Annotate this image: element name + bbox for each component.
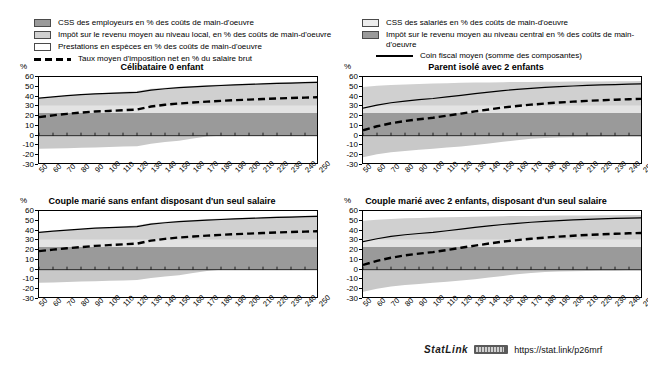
y-axis-tick-label: 20 <box>25 111 34 120</box>
area-band-negative <box>39 270 318 283</box>
y-axis-tick-label: 40 <box>25 91 34 100</box>
area-band <box>39 81 318 106</box>
barcode-icon <box>474 345 508 354</box>
y-axis-tick-label: 0 <box>354 130 358 139</box>
y-axis-unit-label: % <box>20 62 27 71</box>
chart-title: Couple marié sans enfant disposant d'un … <box>0 196 324 206</box>
y-axis-tick-label: 10 <box>349 120 358 129</box>
y-axis-tick-label: 30 <box>349 235 358 244</box>
y-axis-unit-label: % <box>20 196 27 205</box>
statlink-url[interactable]: https://stat.link/p26mrf <box>514 345 602 355</box>
figure-root: CSS des employeurs en % des coûts de mai… <box>0 0 648 370</box>
y-axis-tick-label: -10 <box>22 274 34 283</box>
y-axis-tick-label: 20 <box>349 111 358 120</box>
legend-item[interactable]: CSS des employeurs en % des coûts de mai… <box>34 18 334 29</box>
y-axis-tick-label: 10 <box>25 254 34 263</box>
area-band <box>363 106 642 113</box>
y-axis-tick-label: 60 <box>25 206 34 215</box>
y-axis-tick-label: 0 <box>30 130 34 139</box>
y-axis-tick-mark <box>35 298 38 299</box>
area-band-negative <box>363 136 642 158</box>
y-axis-tick-label: -20 <box>346 284 358 293</box>
y-axis-tick-label: 40 <box>349 91 358 100</box>
y-axis-tick-label: -30 <box>22 160 34 169</box>
y-axis-tick-label: -30 <box>346 294 358 303</box>
y-axis-tick-label: 50 <box>349 215 358 224</box>
y-axis-tick-label: 40 <box>25 225 34 234</box>
legend-swatch-icon <box>34 19 51 27</box>
y-axis-tick-label: 0 <box>30 264 34 273</box>
area-band <box>39 113 318 136</box>
chart-panel-celibataire-0-enfant: Célibataire 0 enfant%6050403020100-10-20… <box>0 62 324 192</box>
area-band <box>363 247 642 270</box>
area-band-negative <box>363 270 642 292</box>
y-axis-tick-label: 10 <box>349 254 358 263</box>
area-band-negative <box>39 136 318 149</box>
y-axis-tick-label: -20 <box>346 150 358 159</box>
plot-svg <box>39 77 318 164</box>
y-axis-tick-label: 60 <box>349 206 358 215</box>
chart-panel-couple-marie-sans-enfant: Couple marié sans enfant disposant d'un … <box>0 196 324 326</box>
x-axis-labels: 5060708090100110120130140150160170180190… <box>362 300 642 322</box>
legend-label: CSS des employeurs en % des coûts de mai… <box>58 18 254 28</box>
legend-label: CSS des salariés en % des coûts de main-… <box>386 18 568 28</box>
legend-item[interactable]: Impôt sur le revenu moyen au niveau cent… <box>362 30 648 50</box>
legend-item[interactable]: Coin fiscal moyen (somme des composantes… <box>362 51 648 62</box>
y-axis-tick-label: 40 <box>349 225 358 234</box>
y-axis-tick-label: -10 <box>346 140 358 149</box>
chart-panel-parent-isole-avec-2-enfants: Parent isolé avec 2 enfants%605040302010… <box>324 62 648 192</box>
chart-title: Parent isolé avec 2 enfants <box>324 62 648 72</box>
legend-right: CSS des salariés en % des coûts de main-… <box>362 18 648 63</box>
area-band <box>39 247 318 270</box>
solid-line-icon <box>376 52 413 60</box>
y-axis-tick-label: -10 <box>346 274 358 283</box>
y-axis-tick-label: -20 <box>22 284 34 293</box>
y-axis-unit-label: % <box>344 62 351 71</box>
plot-svg <box>39 211 318 298</box>
legend-swatch-icon <box>34 43 51 51</box>
y-axis-tick-label: -30 <box>346 160 358 169</box>
y-axis-tick-label: 30 <box>25 235 34 244</box>
plot-area <box>38 76 318 164</box>
y-axis-unit-label: % <box>344 196 351 205</box>
x-axis-tick-label: 250 <box>641 159 648 174</box>
y-axis-tick-label: 10 <box>25 120 34 129</box>
chart-panel-couple-marie-avec-2-enfants: Couple marié avec 2 enfants, disposant d… <box>324 196 648 326</box>
statlink[interactable]: StatLink https://stat.link/p26mrf <box>424 344 602 355</box>
legend-item[interactable]: Impôt sur le revenu moyen au niveau loca… <box>34 30 334 41</box>
statlink-label: StatLink <box>424 344 468 355</box>
y-axis-tick-label: 20 <box>25 245 34 254</box>
plot-area <box>362 76 642 164</box>
area-band <box>39 215 318 240</box>
area-band <box>363 240 642 247</box>
y-axis-tick-label: -20 <box>22 150 34 159</box>
x-axis-labels: 5060708090100110120130140150160170180190… <box>362 166 642 188</box>
legend-swatch-icon <box>362 19 379 27</box>
y-axis-tick-label: 60 <box>349 72 358 81</box>
legend-label: Impôt sur le revenu moyen au niveau cent… <box>386 30 648 50</box>
chart-title: Couple marié avec 2 enfants, disposant d… <box>324 196 648 206</box>
plot-svg <box>363 211 642 298</box>
legend-swatch-icon <box>34 31 51 39</box>
y-axis-tick-label: 60 <box>25 72 34 81</box>
y-axis-tick-label: 30 <box>25 101 34 110</box>
y-axis-tick-label: -10 <box>22 140 34 149</box>
legend-item[interactable]: Prestations en espèces en % des coûts de… <box>34 42 334 53</box>
y-axis-tick-mark <box>359 298 362 299</box>
y-axis-tick-mark <box>35 164 38 165</box>
legend-item[interactable]: CSS des salariés en % des coûts de main-… <box>362 18 648 29</box>
legend-left: CSS des employeurs en % des coûts de mai… <box>34 18 334 66</box>
area-band <box>363 113 642 136</box>
y-axis-tick-label: 0 <box>354 264 358 273</box>
y-axis-tick-label: 50 <box>25 215 34 224</box>
y-axis-tick-label: -30 <box>22 294 34 303</box>
y-axis-tick-label: 50 <box>25 81 34 90</box>
y-axis-tick-label: 20 <box>349 245 358 254</box>
legend-swatch-icon <box>362 31 379 39</box>
y-axis-tick-label: 30 <box>349 101 358 110</box>
x-axis-tick-label: 250 <box>641 293 648 308</box>
chart-title: Célibataire 0 enfant <box>0 62 324 72</box>
plot-area <box>362 210 642 298</box>
legend-label: Coin fiscal moyen (somme des composantes… <box>420 51 582 61</box>
plot-svg <box>363 77 642 164</box>
